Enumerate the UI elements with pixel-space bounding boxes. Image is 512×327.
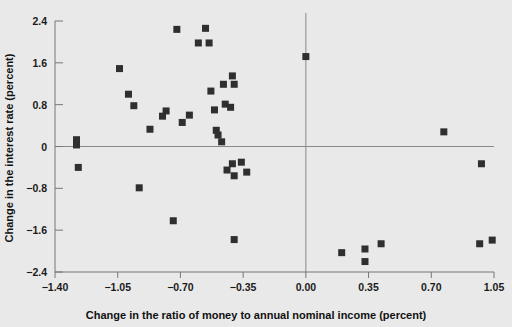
y-tick-label: 0 bbox=[41, 141, 47, 153]
data-point bbox=[73, 141, 80, 148]
data-point bbox=[116, 65, 123, 72]
data-point bbox=[229, 72, 236, 79]
data-point bbox=[173, 26, 180, 33]
data-point bbox=[125, 91, 132, 98]
x-tick-label: 1.05 bbox=[484, 281, 505, 293]
data-point bbox=[302, 53, 309, 60]
data-point bbox=[130, 102, 137, 109]
data-point bbox=[206, 39, 213, 46]
scatter-plot-svg: −1.40−1.05−0.70−0.350.000.350.701.05 2.4… bbox=[0, 0, 512, 327]
data-point bbox=[163, 107, 170, 114]
data-point bbox=[231, 81, 238, 88]
data-point bbox=[338, 249, 345, 256]
x-tick-label: −0.70 bbox=[167, 281, 194, 293]
y-tick-label: −0.8 bbox=[26, 182, 47, 194]
x-tick-label: −1.40 bbox=[42, 281, 69, 293]
data-point bbox=[224, 167, 231, 174]
chart-background bbox=[0, 0, 512, 327]
data-point bbox=[186, 112, 193, 119]
y-tick-label: −1.6 bbox=[26, 224, 47, 236]
data-point bbox=[195, 39, 202, 46]
x-tick-label: −0.35 bbox=[230, 281, 257, 293]
data-point bbox=[361, 245, 368, 252]
data-point bbox=[476, 240, 483, 247]
x-axis-title: Change in the ratio of money to annual n… bbox=[86, 309, 427, 321]
data-point bbox=[136, 184, 143, 191]
data-point bbox=[243, 169, 250, 176]
x-tick-label: −1.05 bbox=[104, 281, 131, 293]
scatter-chart-figure: −1.40−1.05−0.70−0.350.000.350.701.05 2.4… bbox=[0, 0, 512, 327]
data-point bbox=[238, 159, 245, 166]
data-point bbox=[75, 164, 82, 171]
data-point bbox=[218, 138, 225, 145]
x-tick-label: 0.00 bbox=[296, 281, 317, 293]
data-point bbox=[489, 237, 496, 244]
data-point bbox=[440, 128, 447, 135]
data-point bbox=[361, 258, 368, 265]
y-tick-label: −2.4 bbox=[26, 266, 47, 278]
data-point bbox=[378, 240, 385, 247]
data-point bbox=[231, 236, 238, 243]
data-point bbox=[170, 217, 177, 224]
data-point bbox=[202, 25, 209, 32]
data-point bbox=[231, 172, 238, 179]
y-tick-label: 0.8 bbox=[32, 99, 47, 111]
data-point bbox=[211, 106, 218, 113]
y-axis-title: Change in the interest rate (percent) bbox=[3, 53, 15, 242]
data-point bbox=[207, 88, 214, 95]
y-tick-label: 1.6 bbox=[32, 57, 47, 69]
data-point bbox=[229, 160, 236, 167]
x-tick-label: 0.70 bbox=[421, 281, 442, 293]
data-point bbox=[478, 160, 485, 167]
x-tick-label: 0.35 bbox=[358, 281, 379, 293]
data-point bbox=[220, 81, 227, 88]
y-tick-label: 2.4 bbox=[32, 15, 47, 27]
data-point bbox=[179, 119, 186, 126]
data-point bbox=[215, 131, 222, 138]
data-point bbox=[227, 104, 234, 111]
data-point bbox=[146, 126, 153, 133]
